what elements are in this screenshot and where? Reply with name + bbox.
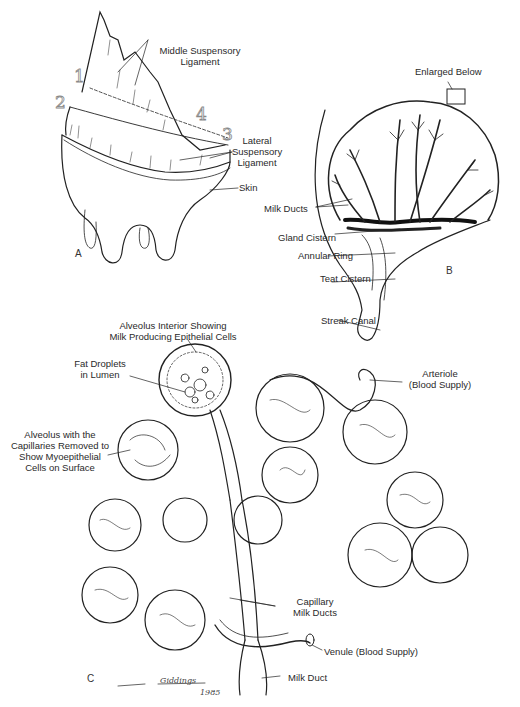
- artist-signature: Giddings: [160, 676, 196, 685]
- label-alveolus-interior: Alveolus Interior Showing Milk Producing…: [108, 320, 238, 342]
- signature-year: 1985: [200, 688, 220, 697]
- label-milk-duct: Milk Duct: [288, 672, 327, 683]
- panel-label-a: A: [75, 248, 82, 259]
- label-line: Ligament: [232, 157, 282, 168]
- panel-label-b: B: [446, 265, 453, 276]
- label-line: (Blood Supply): [405, 379, 475, 390]
- label-gland-cistern: Gland Cistern: [278, 232, 336, 243]
- label-line: Ligament: [150, 56, 250, 67]
- label-capillary-milk-ducts: Capillary Milk Ducts: [290, 596, 340, 618]
- label-line: Middle Suspensory: [150, 45, 250, 56]
- label-lateral-suspensory-ligament: Lateral Suspensory Ligament: [232, 135, 282, 168]
- label-line: Lateral: [232, 135, 282, 146]
- panel-b-duct-tree-drawing: [315, 82, 498, 340]
- label-skin: Skin: [239, 182, 257, 193]
- label-line: Capillaries Removed to: [10, 440, 110, 451]
- label-line: Fat Droplets: [70, 358, 130, 369]
- label-arteriole: Arteriole (Blood Supply): [405, 368, 475, 390]
- label-middle-suspensory-ligament: Middle Suspensory Ligament: [150, 45, 250, 67]
- label-fat-droplets: Fat Droplets in Lumen: [70, 358, 130, 380]
- label-line: Cells on Surface: [10, 462, 110, 473]
- label-alveolus-capillaries-removed: Alveolus with the Capillaries Removed to…: [10, 429, 110, 473]
- label-enlarged-below: Enlarged Below: [415, 66, 482, 77]
- label-line: Milk Ducts: [290, 607, 340, 618]
- label-line: Alveolus Interior Showing: [108, 320, 238, 331]
- region-number-2: 2: [55, 92, 66, 112]
- label-line: Alveolus with the: [10, 429, 110, 440]
- label-line: Suspensory: [232, 146, 282, 157]
- label-line: Capillary: [290, 596, 340, 607]
- label-line: Milk Producing Epithelial Cells: [108, 331, 238, 342]
- label-venule: Venule (Blood Supply): [324, 646, 418, 657]
- region-number-4: 4: [196, 104, 207, 124]
- label-streak-canal: Streak Canal: [321, 315, 376, 326]
- label-annular-ring: Annular Ring: [298, 250, 353, 261]
- label-line: Show Myoepithelial: [10, 451, 110, 462]
- panel-label-c: C: [87, 673, 94, 684]
- panel-c-alveoli-drawing: [82, 340, 468, 695]
- udder-anatomy-figure: 1 2 3 4 Middle Suspensory Ligament Later…: [0, 0, 520, 707]
- label-milk-ducts: Milk Ducts: [264, 203, 308, 214]
- label-line: Arteriole: [405, 368, 475, 379]
- illustration-artwork: [0, 0, 520, 707]
- label-teat-cistern: Teat Cistern: [320, 273, 371, 284]
- region-number-1: 1: [74, 66, 85, 86]
- label-line: in Lumen: [70, 369, 130, 380]
